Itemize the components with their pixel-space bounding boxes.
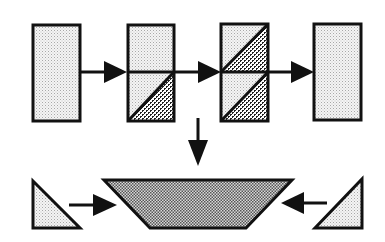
diagram-canvas bbox=[0, 0, 385, 242]
block-1 bbox=[33, 25, 80, 121]
process-diagram bbox=[0, 0, 385, 242]
block-3 bbox=[221, 24, 268, 121]
arrow-block2-to-block3 bbox=[174, 61, 221, 83]
arrow-down-to-trapezoid bbox=[188, 118, 208, 166]
block-4 bbox=[314, 24, 361, 120]
arrow-left-triangle-to-trapezoid bbox=[69, 194, 117, 216]
block-2 bbox=[128, 25, 174, 121]
center-trapezoid bbox=[104, 180, 292, 228]
arrow-right-triangle-to-trapezoid bbox=[281, 192, 327, 214]
arrow-block1-to-block2 bbox=[80, 61, 127, 83]
arrow-block3-to-block4 bbox=[268, 61, 314, 83]
